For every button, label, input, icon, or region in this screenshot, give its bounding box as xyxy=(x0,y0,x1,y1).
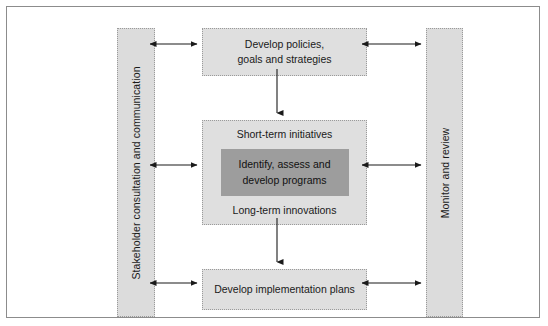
connector-layer xyxy=(7,7,539,317)
diagram-outer-frame: Stakeholder consultation and communicati… xyxy=(6,6,540,318)
diagram-canvas: Stakeholder consultation and communicati… xyxy=(0,0,548,326)
